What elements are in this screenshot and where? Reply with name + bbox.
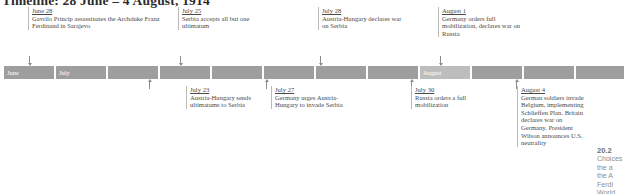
event-text: Gavrilo Princip assassinates the Archduk… [32, 15, 160, 30]
timeline-bar: June July August [4, 66, 624, 79]
tick-arrow-icon [515, 79, 519, 82]
event-text: Germany urges Austria-Hungary to invade … [275, 94, 353, 109]
bar-segment-label: June [7, 67, 19, 78]
bar-segment [108, 66, 158, 79]
tick-arrow-icon [265, 79, 269, 82]
event-date: July 27 [275, 86, 353, 94]
event-text: Austria-Hungary sends ultimatums to Serb… [190, 94, 264, 109]
timeline-figure: Timeline: 28 June – 4 August, 1914 June … [0, 0, 631, 194]
event-above-june-28: June 28 Gavrilo Princip assassinates the… [28, 7, 160, 30]
event-text: German soldiers invade Belgium, implemen… [521, 94, 589, 147]
event-above-july-28: July 28 Austria-Hungary declares war on … [318, 7, 404, 30]
tick-arrow-icon [148, 79, 152, 82]
tick-arrow-icon [439, 63, 443, 66]
bar-segment [212, 66, 262, 79]
bar-segment [524, 66, 574, 79]
tick-july-23 [149, 80, 150, 89]
event-above-august-1: August 1 Germany orders full mobilizatio… [438, 7, 524, 37]
margin-caption-line-4: Ferdi [597, 181, 631, 189]
margin-caption: 20.2 Choices the a the A Ferdi World [597, 147, 631, 194]
margin-caption-line-3: the A [597, 172, 631, 180]
tick-august-1 [440, 56, 441, 65]
event-below-july-27: July 27 Germany urges Austria-Hungary to… [271, 86, 353, 109]
event-date: July 28 [322, 7, 404, 15]
bar-segment [576, 66, 624, 79]
event-date: July 30 [415, 86, 485, 94]
tick-arrow-icon [28, 63, 32, 66]
event-text: Austria-Hungary declares war on Serbia [322, 15, 404, 30]
event-below-july-30: July 30 Russia orders a full mobilizatio… [411, 86, 485, 109]
margin-caption-line-2: the a [597, 164, 631, 172]
event-below-august-4: August 4 German soldiers invade Belgium,… [517, 86, 589, 147]
tick-july-25 [180, 56, 181, 65]
bar-segment [368, 66, 418, 79]
event-text: Russia orders a full mobilization [415, 94, 485, 109]
event-date: June 28 [32, 7, 160, 15]
bar-segment-august: August [420, 66, 470, 79]
event-text: Germany orders full mobilization, declar… [442, 15, 524, 38]
bar-segment [160, 66, 210, 79]
bar-segment [316, 66, 366, 79]
margin-caption-line-5: World [597, 189, 631, 194]
event-above-july-25: July 25 Serbia accepts all but one ultim… [178, 7, 260, 30]
tick-june-28 [29, 56, 30, 65]
event-date: July 25 [182, 7, 260, 15]
bar-segment-label: July [59, 67, 70, 78]
tick-arrow-icon [410, 79, 414, 82]
event-date: August 4 [521, 86, 589, 94]
bar-segment [264, 66, 314, 79]
bar-segment-june: June [4, 66, 54, 79]
bar-segment-label: August [423, 67, 441, 78]
tick-july-27 [266, 80, 267, 89]
tick-arrow-icon [319, 63, 323, 66]
event-date: August 1 [442, 7, 524, 15]
tick-july-28 [320, 56, 321, 65]
bar-segment-july: July [56, 66, 106, 79]
bar-segment [472, 66, 522, 79]
margin-caption-number: 20.2 [597, 146, 612, 155]
event-below-july-23: July 23 Austria-Hungary sends ultimatums… [186, 86, 264, 109]
tick-arrow-icon [179, 63, 183, 66]
event-text: Serbia accepts all but one ultimatum [182, 15, 260, 30]
event-date: July 23 [190, 86, 264, 94]
margin-caption-line-1: Choices [597, 155, 631, 163]
